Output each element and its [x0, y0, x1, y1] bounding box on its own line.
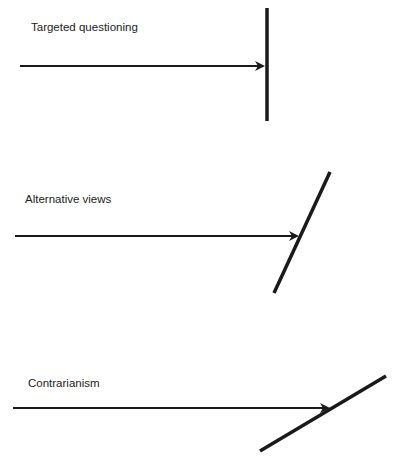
- diagram-graphics: [0, 0, 402, 471]
- diagram-canvas: Targeted questioning Alternative views C…: [0, 0, 402, 471]
- label-targeted-questioning: Targeted questioning: [31, 22, 138, 34]
- label-contrarianism: Contrarianism: [28, 378, 100, 390]
- label-alternative-views: Alternative views: [25, 194, 111, 206]
- barrier-line: [260, 376, 386, 451]
- barrier-line: [274, 172, 330, 293]
- panel-alternative-views: [15, 172, 330, 293]
